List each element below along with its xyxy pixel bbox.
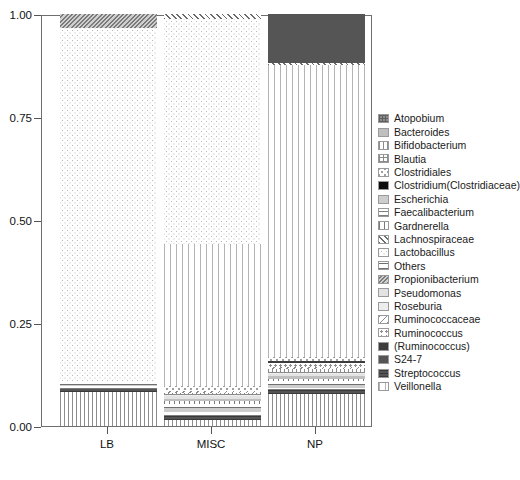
legend-item[interactable]: Bacteroides bbox=[378, 125, 511, 138]
x-tick-mark bbox=[315, 427, 316, 434]
legend-swatch-icon bbox=[378, 235, 389, 244]
legend-label: Gardnerella bbox=[394, 221, 449, 232]
legend-label: (Ruminococcus) bbox=[394, 341, 470, 352]
legend-label: Propionibacterium bbox=[394, 274, 479, 285]
legend-swatch-icon bbox=[378, 382, 389, 391]
legend-swatch-icon bbox=[378, 369, 389, 378]
legend-label: Lactobacillus bbox=[394, 247, 455, 258]
legend-label: Bifidobacterium bbox=[394, 140, 466, 151]
legend-item[interactable]: Clostridiales bbox=[378, 166, 511, 179]
stacked-bar-np[interactable] bbox=[268, 14, 365, 426]
y-tick-mark bbox=[34, 427, 41, 428]
bar-segment[interactable] bbox=[60, 28, 157, 380]
stacked-bar-misc[interactable] bbox=[164, 14, 261, 426]
legend-swatch-icon bbox=[378, 221, 389, 230]
legend-item[interactable]: S24-7 bbox=[378, 353, 511, 366]
legend-item[interactable]: Ruminococcus bbox=[378, 326, 511, 339]
x-tick-mark bbox=[211, 427, 212, 434]
legend-item[interactable]: Gardnerella bbox=[378, 219, 511, 232]
legend-label: Others bbox=[394, 261, 426, 272]
legend-swatch-icon bbox=[378, 181, 389, 190]
bar-segment[interactable] bbox=[164, 420, 261, 426]
legend-label: Atopobium bbox=[394, 113, 444, 124]
legend-item[interactable]: Faecalibacterium bbox=[378, 206, 511, 219]
legend-swatch-icon bbox=[378, 302, 389, 311]
legend-item[interactable]: Bifidobacterium bbox=[378, 139, 511, 152]
legend-label: Clostridiales bbox=[394, 167, 451, 178]
legend-item[interactable]: Others bbox=[378, 259, 511, 272]
legend-item[interactable]: Pseudomonas bbox=[378, 286, 511, 299]
legend-label: Bacteroides bbox=[394, 127, 449, 138]
legend-swatch-icon bbox=[378, 288, 389, 297]
legend-label: Ruminococcus bbox=[394, 328, 463, 339]
legend-label: Streptococcus bbox=[394, 368, 461, 379]
legend-item[interactable]: Ruminococcaceae bbox=[378, 313, 511, 326]
legend-label: Lachnospiraceae bbox=[394, 234, 474, 245]
bar-segment[interactable] bbox=[60, 392, 157, 426]
legend-label: S24-7 bbox=[394, 354, 422, 365]
legend-label: Roseburia bbox=[394, 301, 442, 312]
y-axis: 1.000.750.500.250.00 bbox=[0, 0, 41, 480]
y-tick-mark bbox=[34, 15, 41, 16]
legend-swatch-icon bbox=[378, 114, 389, 123]
legend-swatch-icon bbox=[378, 128, 389, 137]
bar-segment[interactable] bbox=[268, 394, 365, 426]
legend-swatch-icon bbox=[378, 315, 389, 324]
x-tick-label: NP bbox=[307, 438, 323, 450]
legend-swatch-icon bbox=[378, 261, 389, 270]
legend-item[interactable]: Clostridium(Clostridiaceae) bbox=[378, 179, 511, 192]
legend-swatch-icon bbox=[378, 154, 389, 163]
legend-swatch-icon bbox=[378, 141, 389, 150]
x-tick-label: LB bbox=[100, 438, 114, 450]
legend-item[interactable]: Roseburia bbox=[378, 299, 511, 312]
legend-label: Escherichia bbox=[394, 194, 448, 205]
legend-label: Ruminococcaceae bbox=[394, 314, 480, 325]
legend-item[interactable]: Blautia bbox=[378, 152, 511, 165]
legend-label: Pseudomonas bbox=[394, 288, 461, 299]
legend-swatch-icon bbox=[378, 328, 389, 337]
bar-segment[interactable] bbox=[60, 14, 157, 28]
plot-area bbox=[41, 15, 372, 427]
legend-item[interactable]: Escherichia bbox=[378, 192, 511, 205]
legend-swatch-icon bbox=[378, 248, 389, 257]
y-tick-mark bbox=[34, 221, 41, 222]
legend-swatch-icon bbox=[378, 355, 389, 364]
bar-segment[interactable] bbox=[268, 14, 365, 63]
legend-item[interactable]: Propionibacterium bbox=[378, 273, 511, 286]
legend-label: Clostridium(Clostridiaceae) bbox=[394, 180, 520, 191]
legend-label: Veillonella bbox=[394, 381, 441, 392]
legend-swatch-icon bbox=[378, 275, 389, 284]
legend-swatch-icon bbox=[378, 195, 389, 204]
bar-segment[interactable] bbox=[268, 65, 365, 357]
legend-item[interactable]: Lachnospiraceae bbox=[378, 233, 511, 246]
legend-item[interactable]: Streptococcus bbox=[378, 366, 511, 379]
y-tick-label: 1.00 bbox=[10, 9, 32, 21]
legend-item[interactable]: Lactobacillus bbox=[378, 246, 511, 259]
y-tick-mark bbox=[34, 118, 41, 119]
legend-item[interactable]: Veillonella bbox=[378, 380, 511, 393]
legend-item[interactable]: Atopobium bbox=[378, 112, 511, 125]
x-tick-label: MISC bbox=[197, 438, 226, 450]
legend-swatch-icon bbox=[378, 208, 389, 217]
y-tick-label: 0.00 bbox=[10, 421, 32, 433]
stacked-bar-lb[interactable] bbox=[60, 14, 157, 426]
y-tick-label: 0.25 bbox=[10, 318, 32, 330]
legend-item[interactable]: (Ruminococcus) bbox=[378, 340, 511, 353]
legend-label: Faecalibacterium bbox=[394, 207, 474, 218]
bar-segment[interactable] bbox=[164, 19, 261, 244]
y-tick-label: 0.75 bbox=[10, 112, 32, 124]
legend-swatch-icon bbox=[378, 342, 389, 351]
legend-swatch-icon bbox=[378, 168, 389, 177]
legend: AtopobiumBacteroidesBifidobacteriumBlaut… bbox=[378, 112, 511, 393]
x-tick-mark bbox=[107, 427, 108, 434]
bar-segment[interactable] bbox=[164, 244, 261, 386]
legend-label: Blautia bbox=[394, 154, 426, 165]
y-tick-mark bbox=[34, 324, 41, 325]
y-tick-label: 0.50 bbox=[10, 215, 32, 227]
